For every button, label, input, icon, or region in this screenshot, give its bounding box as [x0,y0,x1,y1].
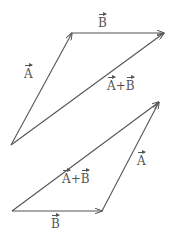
vector-a-top [11,33,72,145]
vector-diagram [0,0,171,242]
label-sum-top: A+B [107,80,135,92]
label-sum-bottom: A+B [62,173,90,185]
vector-a-bottom [102,102,159,211]
vector-sum-top [11,33,164,145]
label-b-bottom: B [51,218,60,230]
label-a-bottom: A [137,155,146,167]
label-a-top: A [24,68,33,80]
label-b-top: B [98,17,107,29]
top-figure [11,33,164,145]
